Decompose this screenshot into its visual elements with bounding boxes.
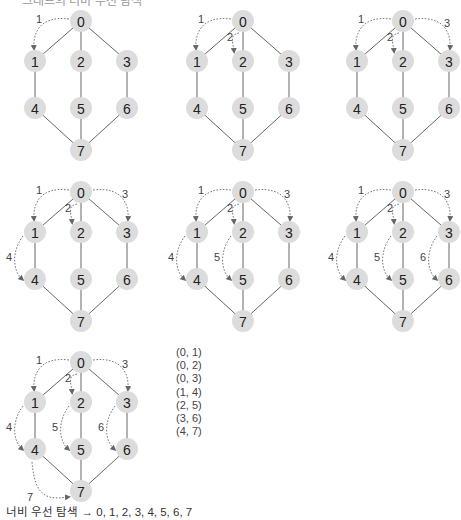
traversal-step-label: 1	[198, 184, 204, 196]
node-label: 7	[77, 314, 85, 330]
graph-node-1: 1	[24, 391, 46, 413]
traversal-arrow	[32, 462, 68, 498]
graph-node-5: 5	[232, 97, 254, 119]
node-label: 3	[123, 54, 131, 70]
graph-node-0: 0	[70, 181, 92, 203]
node-label: 5	[239, 101, 247, 117]
traversal-step-label: 7	[27, 491, 33, 503]
graph-node-7: 7	[70, 310, 92, 332]
graph-node-2: 2	[392, 221, 414, 243]
traversal-arrow	[232, 33, 239, 51]
graph-node-0: 0	[232, 181, 254, 203]
node-label: 3	[123, 225, 131, 241]
graph-node-5: 5	[392, 97, 414, 119]
edge-list-item: (0, 2)	[176, 359, 202, 372]
graph-node-5: 5	[70, 268, 92, 290]
graph-node-2: 2	[232, 221, 254, 243]
graph-node-1: 1	[24, 221, 46, 243]
graph-node-7: 7	[232, 139, 254, 161]
graph-panel-step-7: 123456701234567	[6, 351, 138, 503]
node-label: 3	[445, 54, 453, 70]
traversal-arrow	[223, 236, 231, 279]
node-label: 5	[77, 442, 85, 458]
graph-panel-step-5: 1234501234567	[168, 181, 300, 332]
graph-node-1: 1	[346, 221, 368, 243]
traversal-step-label: 1	[198, 13, 204, 25]
graph-node-3: 3	[116, 221, 138, 243]
node-label: 6	[285, 272, 293, 288]
graph-node-4: 4	[186, 97, 208, 119]
traversal-arrow	[232, 204, 239, 222]
graph-node-7: 7	[392, 310, 414, 332]
graph-node-6: 6	[116, 438, 138, 460]
node-label: 4	[31, 272, 39, 288]
node-label: 2	[77, 54, 85, 70]
traversal-step-label: 4	[168, 251, 174, 263]
node-label: 4	[193, 101, 201, 117]
traversal-arrow	[392, 33, 399, 51]
graph-node-1: 1	[186, 221, 208, 243]
traversal-arrow	[177, 236, 185, 279]
traversal-arrow	[70, 374, 77, 392]
graph-node-2: 2	[392, 50, 414, 72]
edge-list-item: (0, 1)	[176, 346, 202, 359]
graph-panel-step-4: 123401234567	[6, 181, 138, 332]
node-label: 5	[77, 101, 85, 117]
node-label: 1	[193, 54, 201, 70]
traversal-step-label: 3	[444, 188, 450, 200]
traversal-step-label: 6	[420, 251, 426, 263]
traversal-arrow	[107, 406, 115, 449]
node-label: 1	[31, 225, 39, 241]
node-label: 2	[239, 225, 247, 241]
graph-panel-step-2: 1201234567	[186, 10, 300, 161]
graph-node-6: 6	[116, 268, 138, 290]
graph-node-1: 1	[24, 50, 46, 72]
node-label: 1	[193, 225, 201, 241]
traversal-step-label: 1	[36, 184, 42, 196]
node-label: 6	[445, 101, 453, 117]
edge-list-item: (3, 6)	[176, 412, 202, 425]
node-label: 5	[239, 272, 247, 288]
node-label: 6	[123, 101, 131, 117]
node-label: 3	[445, 225, 453, 241]
graph-node-5: 5	[232, 268, 254, 290]
node-label: 5	[399, 272, 407, 288]
traversal-arrow	[392, 204, 399, 222]
traversal-step-label: 2	[65, 372, 71, 384]
graph-node-7: 7	[392, 139, 414, 161]
graph-node-7: 7	[232, 310, 254, 332]
node-label: 7	[239, 143, 247, 159]
node-label: 0	[77, 185, 85, 201]
edge-list-item: (0, 3)	[176, 372, 202, 385]
traversal-step-label: 1	[36, 13, 42, 25]
node-label: 4	[193, 272, 201, 288]
traversal-step-label: 3	[444, 17, 450, 29]
graph-node-0: 0	[232, 10, 254, 32]
node-label: 0	[239, 185, 247, 201]
graph-panel-step-3: 12301234567	[346, 10, 460, 161]
graph-node-0: 0	[70, 10, 92, 32]
graph-node-3: 3	[438, 50, 460, 72]
node-label: 6	[445, 272, 453, 288]
graph-node-7: 7	[70, 480, 92, 502]
edge-list-item: (1, 4)	[176, 386, 202, 399]
node-label: 7	[77, 484, 85, 500]
node-label: 0	[77, 14, 85, 30]
traversal-step-label: 2	[227, 31, 233, 43]
graph-node-2: 2	[70, 50, 92, 72]
node-label: 3	[123, 395, 131, 411]
node-label: 2	[77, 395, 85, 411]
traversal-arrow	[15, 236, 23, 279]
graph-node-5: 5	[70, 438, 92, 460]
traversal-arrow	[429, 236, 437, 279]
traversal-step-label: 1	[358, 13, 364, 25]
node-label: 1	[31, 54, 39, 70]
graph-node-0: 0	[392, 181, 414, 203]
node-label: 1	[31, 395, 39, 411]
graph-node-2: 2	[70, 221, 92, 243]
graph-node-4: 4	[346, 268, 368, 290]
node-label: 1	[353, 225, 361, 241]
node-label: 6	[123, 442, 131, 458]
traversal-step-label: 4	[6, 251, 12, 263]
node-label: 2	[399, 54, 407, 70]
